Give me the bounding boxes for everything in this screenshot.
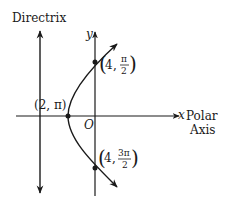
directrix-label: Directrix — [12, 11, 66, 25]
vertex-label: (2, π) — [34, 98, 67, 112]
parabola-polar-diagram: Directrix y x Polar Axis O (2, π) ( 4 , — [0, 0, 227, 207]
svg-text:3π: 3π — [118, 148, 130, 158]
origin-label: O — [84, 118, 94, 132]
svg-text:2: 2 — [121, 66, 127, 76]
svg-text:2: 2 — [122, 160, 128, 170]
x-axis-label: x — [178, 108, 185, 122]
svg-text:): ) — [129, 52, 137, 76]
svg-text:4: 4 — [105, 58, 113, 72]
axis-label: Axis — [189, 123, 215, 137]
svg-text:,: , — [112, 151, 116, 165]
y-axis-label: y — [85, 27, 93, 41]
polar-label: Polar — [186, 109, 218, 123]
bottom-point — [93, 166, 98, 171]
svg-text:): ) — [131, 146, 139, 170]
top-point-label: ( 4 , π 2 ) — [99, 52, 137, 76]
svg-text:,: , — [113, 58, 117, 72]
bottom-point-label: ( 4 , 3π 2 ) — [98, 146, 139, 170]
vertex-point — [66, 114, 71, 119]
svg-text:4: 4 — [104, 151, 112, 165]
top-point — [93, 60, 98, 65]
svg-text:π: π — [121, 54, 127, 64]
